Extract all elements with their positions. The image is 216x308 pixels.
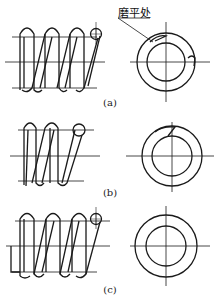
leader-line	[118, 18, 153, 42]
caption-b: (b)	[90, 187, 130, 198]
spring-b-side-view	[10, 123, 100, 186]
spring-b-end-view	[126, 122, 214, 192]
spring-c-end-view	[130, 206, 210, 286]
spring-drawing	[0, 0, 216, 308]
ground-end-annotation: 磨平处	[118, 4, 151, 20]
caption-c: (c)	[90, 284, 130, 295]
spring-a-side-view	[5, 22, 105, 92]
caption-a: (a)	[90, 97, 130, 108]
spring-c-side-view	[6, 207, 110, 278]
